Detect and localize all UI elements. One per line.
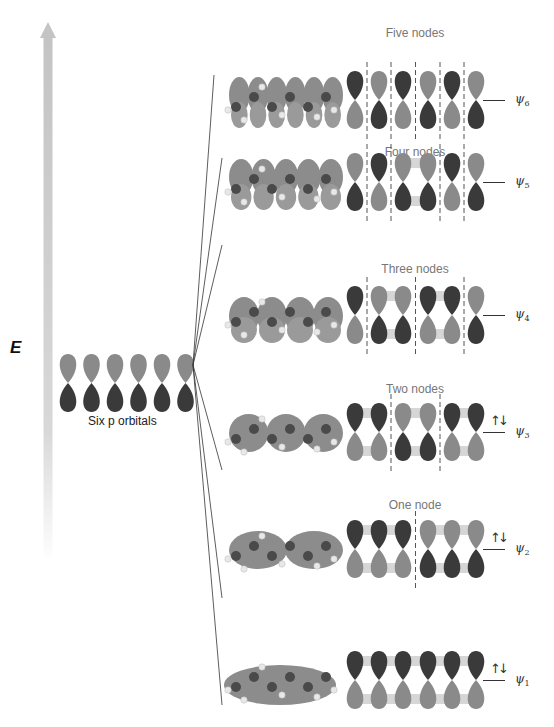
energy-level-psi6: [483, 100, 505, 101]
orbital-lobe: [468, 153, 485, 182]
orbital-lobe: [347, 403, 364, 432]
orbital-diagram-psi2: [343, 509, 488, 589]
orbital-lobe: [371, 432, 388, 461]
orbital-lobe: [444, 153, 461, 182]
orbital-lobe: [420, 100, 437, 129]
orbital-lobe: [420, 520, 437, 549]
orbital-lobe: [347, 153, 364, 182]
orbital-lobe: [347, 286, 364, 315]
orbital-lobe: [371, 71, 388, 100]
electron-pair-psi3: ↑↓: [490, 413, 506, 428]
energy-level-psi5: [483, 182, 505, 183]
orbital-lobe: [347, 680, 364, 709]
molecule-3d-psi4: [222, 280, 340, 350]
orbital-diagram-psi4: [343, 275, 488, 355]
orbital-lobe: [420, 680, 437, 709]
orbital-lobe: [395, 182, 412, 211]
molecule-3d-psi1: [222, 645, 340, 715]
orbital-lobe: [395, 432, 412, 461]
orbital-lobe: [371, 153, 388, 182]
orbital-lobe: [347, 315, 364, 344]
psi-symbol: ψ: [515, 541, 524, 555]
orbital-lobe: [395, 153, 412, 182]
psi-symbol: ψ: [515, 174, 524, 188]
orbital-lobe: [371, 680, 388, 709]
orbital-lobe: [395, 71, 412, 100]
orbital-lobe: [395, 651, 412, 680]
orbital-lobe: [420, 651, 437, 680]
orbital-lobe: [444, 182, 461, 211]
psi-index: 2: [524, 548, 529, 557]
orbital-lobe: [395, 403, 412, 432]
orbital-lobe: [347, 651, 364, 680]
molecule-3d-psi3: [222, 397, 340, 467]
orbital-diagram-psi6: [343, 60, 488, 140]
orbital-lobe: [395, 315, 412, 344]
orbital-lobe: [395, 520, 412, 549]
orbital-lobe: [371, 100, 388, 129]
orbital-lobe: [468, 182, 485, 211]
psi-symbol: ψ: [515, 92, 524, 106]
orbital-lobe: [468, 680, 485, 709]
psi-index: 3: [524, 431, 529, 440]
orbital-diagram-psi1: [343, 640, 488, 720]
energy-level-psi1: [483, 680, 505, 681]
orbital-lobe: [444, 315, 461, 344]
psi-label-2: ψ2: [515, 541, 530, 557]
orbital-lobe: [444, 432, 461, 461]
orbital-lobe: [468, 403, 485, 432]
orbital-lobe: [371, 403, 388, 432]
orbital-lobe: [468, 71, 485, 100]
orbital-lobe: [468, 286, 485, 315]
orbital-lobe: [468, 315, 485, 344]
orbital-diagram-psi3: [343, 392, 488, 472]
orbital-lobe: [371, 520, 388, 549]
orbital-lobe: [468, 432, 485, 461]
orbital-lobe: [420, 286, 437, 315]
orbital-lobe: [420, 315, 437, 344]
orbital-lobe: [420, 549, 437, 578]
orbital-lobe: [444, 651, 461, 680]
orbital-lobe: [444, 403, 461, 432]
orbital-lobe: [420, 71, 437, 100]
orbital-lobe: [444, 549, 461, 578]
orbital-lobe: [395, 100, 412, 129]
psi-index: 4: [524, 314, 529, 323]
orbital-lobe: [444, 520, 461, 549]
orbital-lobe: [420, 153, 437, 182]
orbital-lobe: [347, 71, 364, 100]
orbital-lobe: [420, 403, 437, 432]
orbital-lobe: [444, 680, 461, 709]
orbital-lobe: [468, 549, 485, 578]
orbital-lobe: [371, 182, 388, 211]
orbital-lobe: [371, 549, 388, 578]
orbital-lobe: [371, 286, 388, 315]
orbital-lobe: [420, 182, 437, 211]
orbital-lobe: [347, 549, 364, 578]
orbital-lobe: [420, 432, 437, 461]
psi-symbol: ψ: [515, 307, 524, 321]
molecule-3d-psi6: [222, 65, 340, 135]
orbital-diagram-psi5: [343, 142, 488, 222]
orbital-lobe: [395, 549, 412, 578]
electron-pair-psi1: ↑↓: [490, 661, 506, 676]
psi-label-1: ψ1: [515, 672, 530, 688]
psi-index: 5: [524, 181, 529, 190]
orbital-lobe: [395, 286, 412, 315]
orbital-lobe: [444, 286, 461, 315]
electron-pair-psi2: ↑↓: [490, 530, 506, 545]
psi-index: 6: [524, 99, 529, 108]
orbital-lobe: [347, 432, 364, 461]
energy-level-psi3: [483, 432, 505, 433]
molecule-3d-psi5: [222, 147, 340, 217]
orbital-lobe: [468, 651, 485, 680]
psi-label-6: ψ6: [515, 92, 530, 108]
psi-symbol: ψ: [515, 672, 524, 686]
energy-level-psi4: [483, 315, 505, 316]
orbital-lobe: [444, 100, 461, 129]
orbital-lobe: [371, 315, 388, 344]
psi-index: 1: [524, 679, 529, 688]
energy-level-psi2: [483, 549, 505, 550]
molecule-3d-psi2: [222, 514, 340, 584]
orbital-lobe: [347, 182, 364, 211]
